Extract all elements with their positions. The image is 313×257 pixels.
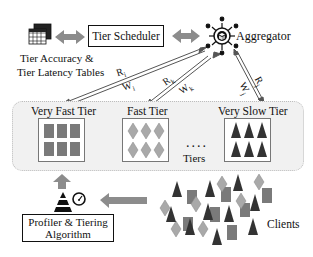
clients-label: Clients <box>267 218 300 230</box>
